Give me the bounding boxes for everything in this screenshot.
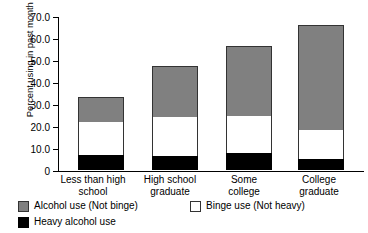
bar-segment-binge-not-heavy: [152, 117, 198, 156]
legend-swatch-white-icon: [190, 201, 201, 212]
bar-segment-binge-not-heavy: [226, 116, 272, 153]
bar-segment-alcohol-not-binge: [226, 46, 272, 116]
y-tick-label-20: 20.0: [31, 123, 50, 133]
legend-row-1: Alcohol use (Not binge) Binge use (Not h…: [18, 198, 358, 214]
y-tick-50: 50.0: [53, 61, 58, 62]
bar-less-than-high-school: [78, 97, 124, 170]
legend-label-heavy-alcohol: Heavy alcohol use: [34, 217, 116, 227]
bar-segment-binge-not-heavy: [78, 122, 124, 155]
bar-segment-heavy-alcohol: [298, 159, 344, 170]
bar-segment-alcohol-not-binge: [298, 25, 344, 130]
legend-row-2: Heavy alcohol use: [18, 214, 358, 230]
bar-segment-alcohol-not-binge: [152, 66, 198, 117]
y-tick-60: 60.0: [53, 39, 58, 40]
y-tick-label-10: 10.0: [31, 145, 50, 155]
legend-item-alcohol-not-binge: Alcohol use (Not binge): [18, 201, 190, 212]
bar-college-graduate: [298, 25, 344, 170]
legend-swatch-black-icon: [18, 217, 29, 228]
y-tick-30: 30.0: [53, 105, 58, 106]
plot-area: 70.0 60.0 50.0 40.0 30.0 20.0 10.0 0: [58, 17, 364, 171]
y-tick-0: 0: [53, 171, 58, 172]
bar-some-college: [226, 46, 272, 170]
y-tick-label-70: 70.0: [31, 13, 50, 23]
y-tick-70: 70.0: [53, 17, 58, 18]
y-tick-20: 20.0: [53, 127, 58, 128]
x-category-label-1: High school graduate: [131, 174, 209, 197]
y-tick-label-50: 50.0: [31, 57, 50, 67]
x-category-label-3: College graduate: [282, 174, 356, 197]
y-tick-label-40: 40.0: [31, 79, 50, 89]
y-axis-line: [58, 17, 59, 172]
legend-swatch-gray-icon: [18, 201, 29, 212]
legend-item-binge-not-heavy: Binge use (Not heavy): [190, 201, 305, 212]
legend-label-binge-not-heavy: Binge use (Not heavy): [206, 201, 305, 211]
y-tick-label-30: 30.0: [31, 101, 50, 111]
x-axis-line: [58, 171, 364, 172]
y-tick-10: 10.0: [53, 149, 58, 150]
legend-label-alcohol-not-binge: Alcohol use (Not binge): [34, 201, 138, 211]
bar-segment-heavy-alcohol: [78, 155, 124, 170]
y-tick-40: 40.0: [53, 83, 58, 84]
bar-high-school-graduate: [152, 66, 198, 170]
bar-segment-heavy-alcohol: [226, 153, 272, 170]
legend-item-heavy-alcohol: Heavy alcohol use: [18, 217, 190, 228]
bar-segment-heavy-alcohol: [152, 156, 198, 170]
bar-segment-alcohol-not-binge: [78, 97, 124, 122]
bar-segment-binge-not-heavy: [298, 130, 344, 159]
x-category-label-2: Some college: [209, 174, 279, 197]
x-category-label-0: Less than high school: [50, 174, 136, 197]
stacked-bar-chart: Percent using in past month 70.0 60.0 50…: [0, 0, 368, 233]
y-tick-label-60: 60.0: [31, 35, 50, 45]
chart-legend: Alcohol use (Not binge) Binge use (Not h…: [18, 198, 358, 230]
